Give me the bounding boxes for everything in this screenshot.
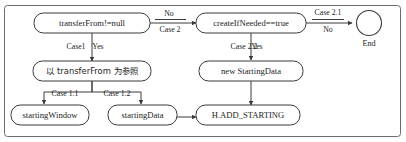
node-reftransferfrom[interactable]: 以 transferFrom 为参照 [33, 61, 151, 81]
edge-label-no-case2-bottom: Case 2 [159, 25, 180, 34]
edge-reftransferfrom-to-startingdata: Case 1.2 [92, 81, 141, 104]
edge-reftransferfrom-to-startingwindow: Case 1.1 [44, 81, 92, 104]
flowchart-diagram: No Case 2 Case 2.1 No Case1 Yes Case 2.2… [0, 0, 406, 142]
node-label-startingwindow: startingWindow [22, 110, 78, 120]
edge-label-case21-bottom: No [323, 25, 333, 34]
edge-createifneeded-to-end: Case 2.1 No [306, 8, 352, 34]
flowchart-canvas: No Case 2 Case 2.1 No Case1 Yes Case 2.2… [0, 0, 406, 142]
node-addstarting[interactable]: H.ADD_STARTING [196, 105, 300, 125]
node-newstartingdata[interactable]: new StartingData [199, 61, 303, 81]
node-end[interactable]: End [357, 11, 382, 48]
node-transferfrom[interactable]: transferFrom!=null [34, 13, 150, 33]
node-label-startingdata: startingData [122, 110, 164, 120]
edge-transferfrom-to-reftransferfrom: Case1 Yes [66, 33, 103, 61]
edge-createifneeded-to-newstartingdata: Case 2.2 Yes [231, 33, 263, 60]
node-label-newstartingdata: new StartingData [221, 66, 281, 76]
edge-label-yes-case22: Yes [251, 42, 262, 51]
node-startingdata[interactable]: startingData [108, 105, 177, 125]
edge-transferfrom-to-createifneeded: No Case 2 [150, 9, 196, 34]
node-startingwindow[interactable]: startingWindow [11, 105, 89, 125]
node-label-createifneeded: createIfNeeded==true [213, 18, 289, 28]
edge-label-case21-top: Case 2.1 [315, 8, 342, 17]
node-createifneeded[interactable]: createIfNeeded==true [196, 13, 306, 33]
node-label-reftransferfrom: 以 transferFrom 为参照 [46, 66, 137, 76]
node-label-end: End [362, 39, 375, 48]
edge-label-case12: Case 1.2 [104, 89, 131, 98]
node-label-addstarting: H.ADD_STARTING [212, 110, 285, 120]
edge-label-case11: Case 1.1 [52, 89, 79, 98]
edge-label-no-case2-top: No [164, 9, 174, 18]
node-label-transferfrom: transferFrom!=null [59, 18, 126, 28]
edge-label-case1: Case1 [66, 42, 85, 51]
edge-label-yes-case1: Yes [92, 42, 103, 51]
